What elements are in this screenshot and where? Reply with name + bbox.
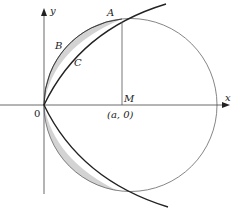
point-C-label: C	[74, 57, 82, 68]
y-axis-label: y	[49, 5, 56, 16]
x-axis-label: x	[225, 92, 231, 103]
y-axis-arrow-icon	[41, 8, 47, 16]
point-B-label: B	[54, 40, 62, 51]
parabola	[44, 4, 168, 207]
point-A-label: A	[106, 7, 114, 18]
diagram: y x 0 A B C M (a, 0)	[0, 0, 234, 218]
point-M-label: M	[123, 93, 135, 104]
arc-C	[44, 19, 122, 105]
center-label: (a, 0)	[107, 109, 134, 120]
origin-label: 0	[34, 108, 40, 119]
